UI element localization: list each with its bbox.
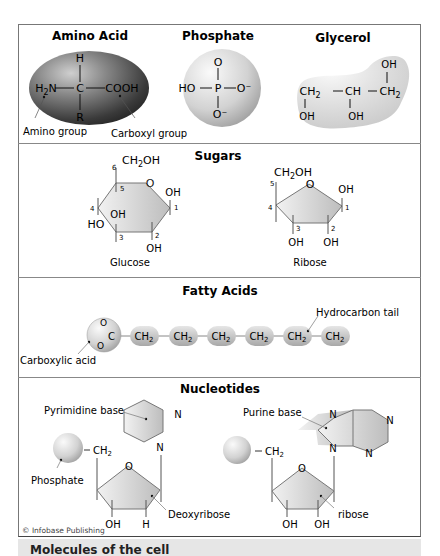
chain-unit-4: CH2 <box>283 326 312 346</box>
sugars-title: Sugars <box>195 149 242 163</box>
ribose-oh-left: OH <box>282 519 297 530</box>
glucose-c2: 2 <box>155 232 159 240</box>
glucose-ring-o: O <box>146 177 155 190</box>
glucose-ho-4: HO <box>88 218 105 231</box>
glycerol-oh-2: OH <box>348 111 363 122</box>
glycerol-group: Glycerol OH CH2 CH CH2 OH OH <box>297 31 409 128</box>
phosphate-group: Phosphate O HO P O⁻ O⁻ <box>179 29 261 127</box>
glucose-oh-3: OH <box>110 209 125 220</box>
glucose-c4: 4 <box>90 205 95 213</box>
pyrimidine-base-label: Pyrimidine base <box>44 405 124 416</box>
carboxyl-group-label: Carboxyl group <box>111 128 187 139</box>
purine-n-3: N <box>329 443 336 454</box>
glucose-c1: 1 <box>174 204 178 212</box>
head-c: C <box>108 331 115 342</box>
ch2-left: CH2 <box>93 445 112 458</box>
glucose-oh-2: OH <box>146 243 161 254</box>
ribose-label: Ribose <box>293 257 327 268</box>
phosphate-label: Phosphate <box>31 475 84 486</box>
sugars-group: Sugars CH2OH 6 5 O OH 1 4 OH HO 3 2 OH G… <box>88 149 354 268</box>
nucleotides-group: Nucleotides Phosphate CH2 N N Pyrimidine… <box>22 382 394 535</box>
deoxyribonucleotide: Phosphate CH2 N N Pyrimidine base O Deox… <box>31 400 230 530</box>
nucleotides-title: Nucleotides <box>180 382 260 396</box>
caption-title-text: Molecules of the cell <box>30 543 169 556</box>
copyright-text: © Infobase Publishing <box>22 526 105 535</box>
amino-group-label: Amino group <box>23 126 87 137</box>
chain-unit-3: CH2 <box>245 326 274 346</box>
hydrocarbon-tail-label: Hydrocarbon tail <box>316 307 399 318</box>
atom-o-bottom: O⁻ <box>213 108 228 121</box>
phosphate-sphere-right <box>223 436 251 464</box>
pyrimidine-n-top: N <box>174 409 181 420</box>
purine-n-2: N <box>386 415 393 426</box>
chain-unit-1: CH2 <box>169 326 198 346</box>
glycerol-ch: CH <box>345 85 361 98</box>
glucose-molecule: CH2OH 6 5 O OH 1 4 OH HO 3 2 OH Glucose <box>88 154 181 268</box>
glucose-ch2oh: CH2OH <box>122 154 160 169</box>
ribose-nucleotide-label: ribose <box>338 509 369 520</box>
head-o2: O <box>97 341 104 351</box>
ribose-ring-nucleotide <box>272 468 334 509</box>
chain-unit-0: CH2 <box>130 326 159 346</box>
atom-ho: HO <box>179 82 196 95</box>
amino-acid-group: Amino Acid H H2N C COOH R Amino group Ca… <box>23 29 187 139</box>
purine-n-1: N <box>329 409 336 420</box>
deoxyribose-ring <box>97 466 160 509</box>
ribose-oh-right: OH <box>314 519 329 530</box>
deoxyribose-ring-o: O <box>125 461 133 472</box>
molecules-diagram: Amino Acid H H2N C COOH R Amino group Ca… <box>0 0 440 556</box>
ribose-c5: 5 <box>270 180 274 188</box>
ribose-oh-1: OH <box>338 184 353 195</box>
pyrimidine-n-bottom: N <box>156 442 163 453</box>
chain-unit-2: CH2 <box>207 326 236 346</box>
purine-base-label: Purine base <box>243 407 302 418</box>
ribose-ring-o-nucleotide: O <box>298 463 306 474</box>
ribose-oh-3: OH <box>288 237 303 248</box>
chain-unit-5: CH2 <box>321 326 350 346</box>
atom-o-right: O⁻ <box>237 82 252 95</box>
atom-p: P <box>215 82 222 95</box>
ribose-c4: 4 <box>268 204 273 212</box>
atom-c: C <box>76 82 84 95</box>
ribonucleotide: CH2 N N N N Purine base O ribose OH OH <box>223 407 394 530</box>
glycerol-oh-3: OH <box>381 59 396 70</box>
atom-cooh: COOH <box>105 82 138 95</box>
atom-r: R <box>76 111 84 124</box>
atom-o-top: O <box>214 56 223 69</box>
carboxylic-acid-label: Carboxylic acid <box>20 355 96 366</box>
atom-h: H <box>76 52 84 65</box>
fatty-acids-group: Fatty Acids O C O Carboxylic acid CH2 CH… <box>20 284 399 366</box>
ribose-c1: 1 <box>345 204 349 212</box>
ribose-molecule: CH2OH 5 4 O OH 1 3 2 OH OH Ribose <box>268 166 354 268</box>
glucose-oh-1: OH <box>165 187 180 198</box>
ribose-c2: 2 <box>331 225 335 233</box>
glucose-c5: 5 <box>120 185 124 193</box>
glucose-c3: 3 <box>119 234 123 242</box>
glycerol-oh-1: OH <box>299 111 314 122</box>
pyrimidine-ring <box>124 400 163 442</box>
ribose-c3: 3 <box>296 225 300 233</box>
deoxyribose-oh: OH <box>105 519 120 530</box>
ribose-oh-2: OH <box>323 237 338 248</box>
phosphate-sphere-left <box>53 433 83 463</box>
glycerol-title: Glycerol <box>315 31 370 45</box>
deoxyribose-label: Deoxyribose <box>168 509 230 520</box>
fatty-acids-title: Fatty Acids <box>182 284 257 298</box>
phosphate-title: Phosphate <box>182 29 254 43</box>
figure-caption: Molecules of the cell <box>18 539 421 556</box>
ribose-ring-o: O <box>306 178 315 191</box>
deoxyribose-h: H <box>142 519 150 530</box>
caption-title: Molecules of the cell <box>30 543 169 556</box>
ch2-right: CH2 <box>265 446 284 459</box>
amino-acid-title: Amino Acid <box>52 29 128 43</box>
glucose-label: Glucose <box>110 257 150 268</box>
head-o1: O <box>100 318 107 328</box>
purine-n-4: N <box>365 448 372 459</box>
glucose-ring <box>98 183 170 232</box>
